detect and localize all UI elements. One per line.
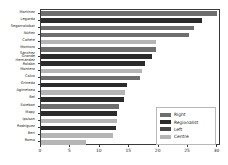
- legend-swatch-icon: [160, 120, 171, 124]
- bar: [41, 40, 156, 45]
- legend-swatch-icon: [160, 135, 171, 139]
- y-axis-tick-label: Ipsison: [22, 118, 35, 122]
- bar-row: [41, 119, 117, 124]
- bar-row: [41, 40, 156, 45]
- x-axis-tick-label: 25: [184, 148, 190, 153]
- x-axis-tick-label: 10: [96, 148, 102, 153]
- bar-row: [41, 47, 156, 52]
- y-axis-tick-label: Legarda: [20, 18, 35, 22]
- bar: [41, 61, 145, 66]
- x-axis-tick-mark: [158, 145, 159, 147]
- bar-row: [41, 104, 119, 109]
- x-axis-tick-label: 5: [68, 148, 71, 153]
- bar-row: [41, 18, 202, 23]
- x-axis-tick-label: 15: [125, 148, 131, 153]
- x-axis-tick-label: 20: [155, 148, 161, 153]
- x-axis-tick-label: 30: [214, 148, 220, 153]
- legend-label: Centre: [174, 134, 189, 139]
- bar-row: [41, 11, 217, 16]
- y-axis-tick-label: Martínez: [19, 11, 35, 15]
- bar-row: [41, 33, 189, 38]
- bar: [41, 97, 124, 102]
- bar-row: [41, 111, 117, 116]
- y-axis-tick-label: Cañete: [22, 39, 35, 43]
- x-axis-ticks: 051015202530: [40, 145, 220, 161]
- bar: [41, 126, 116, 131]
- y-axis-tick-label: Núñez: [24, 32, 35, 36]
- y-axis-tick-label: Beri: [28, 132, 35, 136]
- y-axis-tick-label: Bel: [29, 97, 35, 101]
- y-axis-labels: MartínezLegardaSegarraloibatNúñezCañeteM…: [0, 9, 38, 145]
- y-axis-tick-label: Calvo: [25, 75, 35, 79]
- x-axis-tick-mark: [216, 145, 217, 147]
- bar: [41, 104, 119, 109]
- bar: [41, 33, 189, 38]
- bar: [41, 119, 117, 124]
- legend-item-right[interactable]: Right: [160, 111, 212, 118]
- bar-row: [41, 90, 125, 95]
- legend-item-centre[interactable]: Centre: [160, 133, 212, 140]
- y-axis-tick-label: Grineda: [21, 82, 35, 86]
- bar: [41, 11, 217, 16]
- x-axis-tick-mark: [128, 145, 129, 147]
- x-axis-tick-mark: [187, 145, 188, 147]
- chart-legend: RightRegionalistLeftCentre: [156, 107, 216, 145]
- bar: [41, 133, 113, 138]
- y-axis-tick-label: Hernández Roldán: [16, 59, 35, 67]
- chart-figure: MartínezLegardaSegarraloibatNúñezCañeteM…: [0, 0, 228, 165]
- legend-label: Left: [174, 127, 182, 132]
- bar: [41, 18, 202, 23]
- legend-label: Right: [174, 112, 186, 117]
- bar-row: [41, 97, 124, 102]
- bar: [41, 90, 125, 95]
- bar: [41, 76, 140, 81]
- bar-row: [41, 133, 113, 138]
- legend-label: Regionalist: [174, 120, 198, 125]
- y-axis-tick-label: Esteban: [20, 104, 35, 108]
- bar-row: [41, 69, 142, 74]
- y-axis-tick-label: Segarraloibat: [11, 25, 35, 29]
- bar-row: [41, 83, 127, 88]
- bar-row: [41, 126, 116, 131]
- x-axis-tick-mark: [99, 145, 100, 147]
- x-axis-tick-mark: [40, 145, 41, 147]
- bar: [41, 54, 152, 59]
- bar-row: [41, 76, 140, 81]
- bar-row: [41, 61, 145, 66]
- legend-item-regionalist[interactable]: Regionalist: [160, 118, 212, 125]
- bar: [41, 83, 127, 88]
- x-axis-tick-label: 0: [39, 148, 42, 153]
- legend-swatch-icon: [160, 127, 171, 131]
- bar: [41, 26, 194, 31]
- bar: [41, 47, 156, 52]
- y-axis-tick-label: Roma: [25, 139, 35, 143]
- bar: [41, 111, 117, 116]
- bar-row: [41, 26, 194, 31]
- bar: [41, 69, 142, 74]
- legend-swatch-icon: [160, 113, 171, 117]
- y-axis-tick-label: Agirretxea: [16, 89, 35, 93]
- y-axis-tick-label: Rodríguez: [17, 125, 35, 129]
- y-axis-tick-label: Mapy: [25, 111, 35, 115]
- x-axis-tick-mark: [69, 145, 70, 147]
- bar-row: [41, 54, 152, 59]
- legend-item-left[interactable]: Left: [160, 126, 212, 133]
- y-axis-tick-label: Montero: [20, 68, 35, 72]
